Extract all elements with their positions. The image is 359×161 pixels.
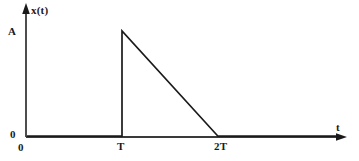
x-axis-arrowhead (336, 133, 347, 141)
plot-canvas (0, 0, 359, 161)
signal-waveform (27, 31, 337, 136)
x-tick-label-2t: 2T (214, 141, 227, 152)
x-tick-label-t: T (117, 141, 125, 152)
amplitude-label: A (8, 26, 16, 37)
y-axis-arrowhead (22, 3, 30, 14)
y-axis-label: x(t) (31, 5, 48, 16)
signal-plot-figure: x(t) A 0 0 T 2T t (0, 0, 359, 161)
y-axis-zero-label: 0 (10, 129, 16, 140)
x-axis-label: t (336, 122, 340, 133)
x-axis-zero-label: 0 (18, 142, 24, 153)
